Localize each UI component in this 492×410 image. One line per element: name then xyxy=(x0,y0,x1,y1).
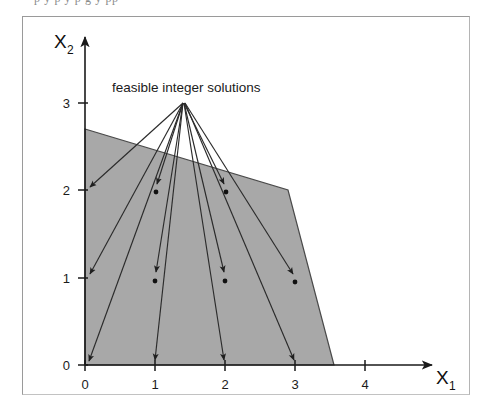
page-top-text-artifact: p y p y p g y pp xyxy=(0,0,492,12)
figure-frame xyxy=(22,16,470,395)
page-top-text-artifact-glyphs: p y p y p g y pp xyxy=(34,0,119,5)
